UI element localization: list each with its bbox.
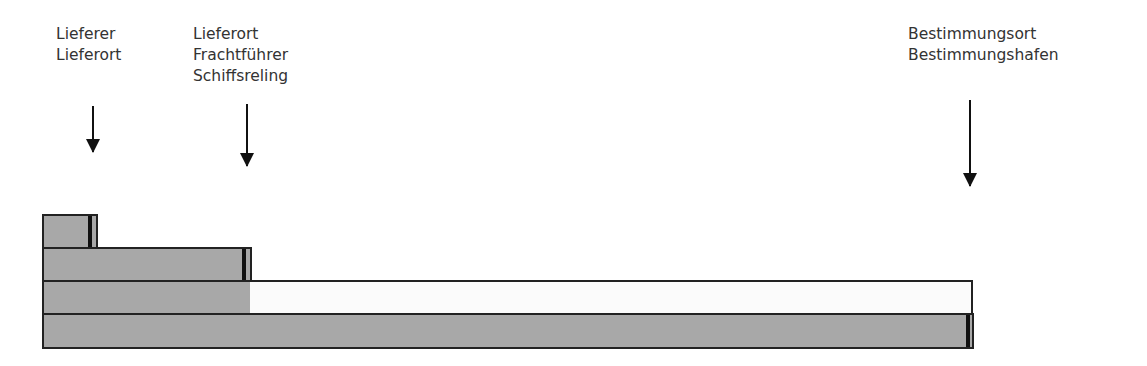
arrow-down-icon xyxy=(92,106,94,152)
label-line: Schiffsreling xyxy=(193,66,288,87)
bar-end-marker xyxy=(242,249,246,281)
bar-end-marker xyxy=(966,315,970,347)
arrow-down-icon xyxy=(246,104,248,166)
label-line: Lieferort xyxy=(193,24,288,45)
label-line: Frachtführer xyxy=(193,45,288,66)
label-line: Lieferer xyxy=(56,24,121,45)
label-line: Bestimmungsort xyxy=(908,24,1059,45)
arrow-down-icon xyxy=(969,100,971,186)
label-bestimmungsort: Bestimmungsort Bestimmungshafen xyxy=(908,24,1059,66)
label-line: Bestimmungshafen xyxy=(908,45,1059,66)
bar-4 xyxy=(42,313,974,349)
label-line: Lieferort xyxy=(56,45,121,66)
bar-end-marker xyxy=(88,216,92,248)
label-lieferer: Lieferer Lieferort xyxy=(56,24,121,66)
label-frachtfuehrer: Lieferort Frachtführer Schiffsreling xyxy=(193,24,288,87)
bar-2 xyxy=(42,247,252,283)
bar-empty-segment xyxy=(250,282,971,314)
bar-1 xyxy=(42,214,98,250)
bar-3 xyxy=(42,280,973,316)
